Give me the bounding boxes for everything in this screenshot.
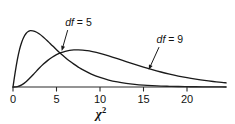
chart-canvas: 05101520 df = 5 df = 9 χ2 — [0, 0, 235, 124]
chi-square-distribution-chart: 05101520 df = 5 df = 9 χ2 — [0, 0, 235, 124]
x-axis-ticks — [13, 87, 187, 92]
x-axis-tick-label: 15 — [137, 93, 149, 105]
curves-group — [13, 31, 226, 87]
x-axis-tick-label: 10 — [94, 93, 106, 105]
df-5-label: df = 5 — [65, 16, 92, 28]
x-axis-title: χ2 — [94, 105, 106, 121]
x-axis-tick-label: 5 — [53, 93, 59, 105]
df-9-label-suffix: = 9 — [165, 33, 183, 45]
df-5-annotation: df = 5 — [61, 16, 92, 51]
x-axis-tick-labels: 05101520 — [10, 93, 193, 105]
x-axis-tick-label: 20 — [181, 93, 193, 105]
df-5-arrow-icon — [61, 46, 65, 51]
df-9-label: df = 9 — [157, 33, 184, 45]
df-9-annotation: df = 9 — [149, 33, 184, 70]
df-9-leader-line — [150, 47, 159, 66]
x-axis-title-exponent: 2 — [102, 105, 106, 115]
df-5-label-suffix: = 5 — [74, 16, 92, 28]
df-5-leader-line — [63, 30, 68, 47]
x-axis-tick-label: 0 — [10, 93, 16, 105]
curve-df-9 — [13, 50, 226, 87]
annotations-group: df = 5 df = 9 — [61, 16, 183, 70]
x-axis-group: 05101520 — [10, 87, 226, 105]
